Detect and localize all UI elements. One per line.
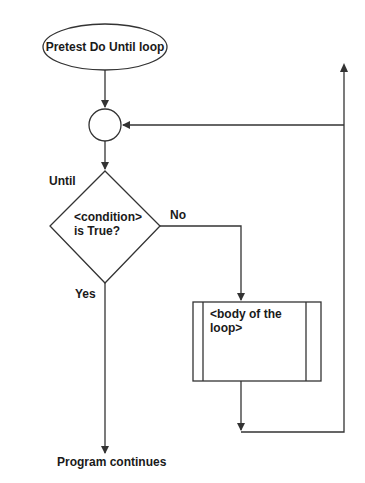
connector-node — [89, 109, 121, 141]
no-label: No — [170, 208, 186, 222]
until-label: Until — [49, 174, 76, 188]
start-node: Pretest Do Until loop — [43, 24, 167, 70]
body-node: <body of the loop> — [193, 302, 321, 381]
start-label: Pretest Do Until loop — [46, 40, 165, 54]
yes-label: Yes — [75, 287, 96, 301]
decision-line2: is True? — [74, 224, 120, 238]
edge-loop-return — [241, 124, 344, 432]
body-line2: loop> — [210, 321, 242, 335]
decision-line1: <condition> — [74, 210, 142, 224]
edge-no-to-body — [160, 226, 241, 300]
flowchart: Pretest Do Until loop Until <condition> … — [0, 0, 365, 483]
end-label: Program continues — [57, 455, 167, 469]
body-line1: <body of the — [210, 307, 282, 321]
